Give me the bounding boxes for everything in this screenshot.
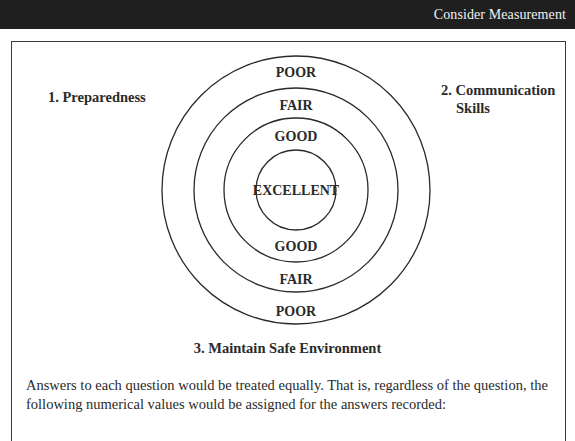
label-bottom-good: GOOD — [275, 239, 318, 254]
label-top-fair: FAIR — [279, 98, 313, 113]
body-paragraph: Answers to each question would be treate… — [26, 376, 561, 414]
label-bottom-fair: FAIR — [279, 272, 313, 287]
category-preparedness: 1. Preparedness — [48, 88, 146, 106]
label-top-good: GOOD — [275, 129, 318, 144]
category-communication-line2: Skills — [441, 99, 555, 117]
category-communication-line1: 2. Communication — [441, 82, 555, 98]
label-bottom-poor: POOR — [276, 304, 317, 319]
category-safe-environment: 3. Maintain Safe Environment — [0, 339, 575, 357]
label-top-poor: POOR — [276, 65, 317, 80]
category-communication-skills: 2. Communication Skills — [441, 81, 555, 117]
label-excellent: EXCELLENT — [253, 183, 340, 198]
